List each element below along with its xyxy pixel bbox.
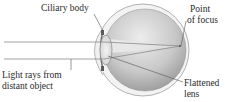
label-text-line1: Light rays from xyxy=(2,70,62,81)
label-flattened-lens: Flattened lens xyxy=(184,78,219,99)
label-light-rays: Light rays from distant object xyxy=(2,70,62,91)
flattened-lens xyxy=(100,35,112,65)
label-ciliary-body: Ciliary body xyxy=(41,3,89,14)
label-text-line2: distant object xyxy=(2,81,62,92)
label-text-line1: Point xyxy=(187,4,218,15)
label-text-line2: lens xyxy=(184,89,219,100)
label-point-of-focus: Point of focus xyxy=(187,4,218,25)
label-text: Ciliary body xyxy=(41,3,89,13)
leader-ciliary-body xyxy=(94,14,103,31)
focus-point xyxy=(179,45,181,47)
label-text-line1: Flattened xyxy=(184,78,219,89)
label-text-line2: of focus xyxy=(187,15,218,26)
